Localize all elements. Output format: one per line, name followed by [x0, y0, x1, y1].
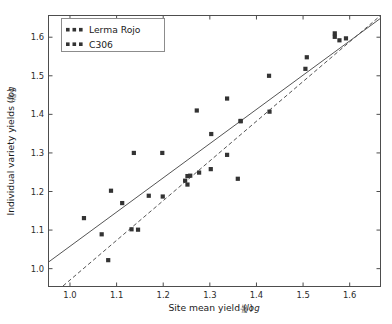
- y-tick-label: 1.4: [31, 109, 44, 119]
- x-tick-label: 1.3: [203, 290, 216, 300]
- x-tick-label: 1.4: [250, 290, 263, 300]
- legend-label-lerma-rojo: Lerma Rojo: [89, 24, 141, 35]
- data-point: [209, 132, 213, 136]
- legend-marker: [79, 28, 83, 32]
- x-axis-title-close-paren: ): [250, 302, 254, 313]
- data-point: [120, 201, 124, 205]
- data-point: [147, 194, 151, 198]
- data-point: [267, 74, 271, 78]
- data-point: [160, 151, 164, 155]
- data-point: [188, 174, 192, 178]
- data-point: [209, 167, 213, 171]
- y-axis-tick-labels: 1.01.11.21.31.41.51.6: [31, 32, 44, 273]
- y-tick-label: 1.2: [31, 187, 44, 197]
- x-tick-label: 1.6: [343, 290, 356, 300]
- data-point: [132, 151, 136, 155]
- data-point: [236, 177, 240, 181]
- legend-marker: [73, 28, 77, 32]
- data-point: [225, 153, 229, 157]
- plot-canvas: 1.01.11.21.31.41.51.6 1.01.11.21.31.41.5…: [0, 0, 392, 324]
- x-axis-title: Site mean yield (log kg ha ): [168, 302, 260, 314]
- data-point: [239, 119, 243, 123]
- legend-marker: [79, 42, 83, 46]
- data-point: [344, 36, 348, 40]
- svg-text:Individual variety yields (log: Individual variety yields (log: [5, 86, 16, 216]
- scatter-plot-figure: 1.01.11.21.31.41.51.6 1.01.11.21.31.41.5…: [0, 0, 392, 324]
- y-tick-label: 1.5: [31, 71, 44, 81]
- x-tick-label: 1.2: [157, 290, 170, 300]
- data-point: [195, 108, 199, 112]
- data-point: [197, 171, 201, 175]
- legend[interactable]: Lerma RojoC306: [62, 19, 165, 52]
- y-tick-label: 1.3: [31, 148, 44, 158]
- legend-marker: [73, 42, 77, 46]
- x-axis-title-denominator: ha: [242, 309, 248, 314]
- data-point: [109, 189, 113, 193]
- data-point: [225, 96, 229, 100]
- legend-marker: [66, 28, 70, 32]
- legend-label-c306: C306: [89, 39, 113, 50]
- data-point: [106, 258, 110, 262]
- y-tick-label: 1.6: [31, 32, 44, 42]
- data-point: [136, 228, 140, 232]
- x-tick-label: 1.0: [63, 290, 76, 300]
- y-axis-title-denominator: ha: [12, 94, 17, 100]
- data-point: [305, 55, 309, 59]
- data-point: [185, 182, 189, 186]
- data-point: [337, 38, 341, 42]
- data-point: [267, 110, 271, 114]
- axes-frame: [49, 16, 381, 287]
- y-tick-label: 1.0: [31, 264, 44, 274]
- data-point: [82, 216, 86, 220]
- data-point: [333, 35, 337, 39]
- data-point: [183, 179, 187, 183]
- x-axis-tick-labels: 1.01.11.21.31.41.51.6: [63, 290, 356, 300]
- legend-marker: [66, 42, 70, 46]
- y-axis-title: Individual variety yields (log kg ha ): [5, 86, 17, 216]
- data-point: [129, 227, 133, 231]
- data-point: [303, 67, 307, 71]
- y-axis-title-close-paren: ): [5, 88, 16, 92]
- x-tick-label: 1.5: [296, 290, 309, 300]
- x-tick-label: 1.1: [110, 290, 123, 300]
- data-point: [161, 194, 165, 198]
- x-axis-title-text: Site mean yield (: [168, 302, 246, 313]
- y-tick-label: 1.1: [31, 225, 44, 235]
- y-axis-title-text: Individual variety yields (: [5, 100, 16, 216]
- data-point: [100, 232, 104, 236]
